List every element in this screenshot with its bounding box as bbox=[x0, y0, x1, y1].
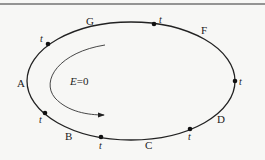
point-label: t bbox=[239, 76, 242, 87]
point-label: t bbox=[39, 114, 42, 125]
region-label-f: F bbox=[201, 24, 207, 36]
point-label: t bbox=[40, 33, 43, 44]
point-marker bbox=[233, 79, 238, 84]
energy-label: E=0 bbox=[69, 75, 89, 87]
point-marker bbox=[46, 42, 51, 47]
labels-layer: GFABCD bbox=[17, 15, 225, 151]
point-label: t bbox=[159, 14, 162, 25]
region-label-a: A bbox=[17, 77, 25, 89]
region-label-d: D bbox=[217, 113, 225, 125]
region-label-b: B bbox=[65, 130, 72, 142]
point-label: t bbox=[99, 140, 102, 151]
energy-value: =0 bbox=[77, 75, 89, 87]
ellipse-diagram: tttttt GFABCD E=0 bbox=[0, 0, 265, 160]
point-marker bbox=[43, 111, 48, 116]
point-marker bbox=[99, 135, 104, 140]
point-marker bbox=[152, 22, 157, 27]
orbit-ellipse bbox=[27, 22, 235, 140]
point-label: t bbox=[188, 131, 191, 142]
region-label-g: G bbox=[86, 15, 94, 27]
region-label-c: C bbox=[145, 139, 152, 151]
diagram-canvas: tttttt GFABCD E=0 bbox=[0, 0, 265, 160]
